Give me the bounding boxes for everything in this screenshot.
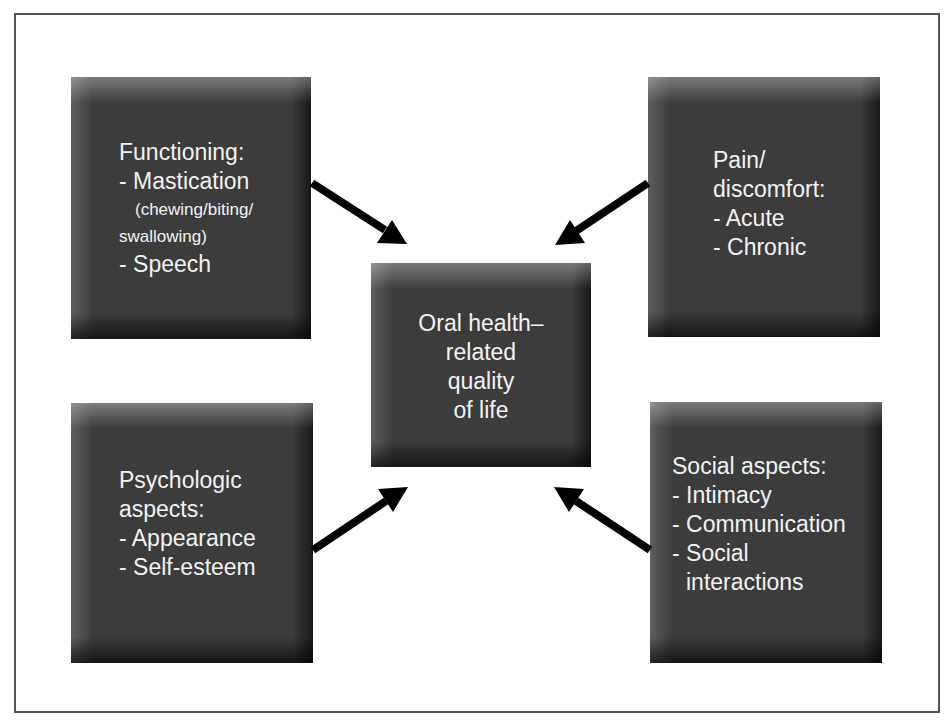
arrow-functioning-to-center [312,183,407,244]
arrow-social-to-center [554,487,650,550]
arrow-psychologic-to-center [313,487,408,550]
arrow-pain-to-center [555,183,648,245]
arrows-layer [0,0,951,727]
